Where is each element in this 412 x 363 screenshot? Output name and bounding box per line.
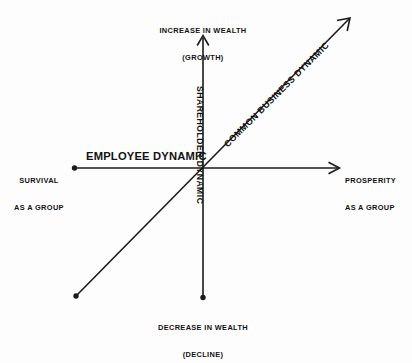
axis-label-decline-line1: DECREASE IN WEALTH — [133, 323, 273, 332]
horizontal-axis-end-dot-icon — [72, 165, 77, 170]
axis-label-growth-line2: (GROWTH) — [133, 53, 273, 62]
axis-label-prosperity-line2: AS A GROUP — [345, 203, 409, 212]
axis-label-survival: SURVIVAL AS A GROUP — [8, 158, 70, 230]
axis-label-decline: DECREASE IN WEALTH (DECLINE) — [133, 305, 273, 363]
vertical-axis-end-dot-icon — [200, 295, 205, 300]
axis-label-decline-line2: (DECLINE) — [133, 350, 273, 359]
axis-label-prosperity-line1: PROSPERITY — [345, 176, 409, 185]
axis-label-prosperity: PROSPERITY AS A GROUP — [345, 158, 409, 230]
axis-label-growth: INCREASE IN WEALTH (GROWTH) — [133, 8, 273, 80]
axis-label-survival-line1: SURVIVAL — [8, 176, 70, 185]
axis-label-growth-line1: INCREASE IN WEALTH — [133, 26, 273, 35]
axis-name-employee-dynamic: EMPLOYEE DYNAMIC — [86, 150, 207, 164]
axis-label-survival-line2: AS A GROUP — [8, 203, 70, 212]
diagonal-axis-end-dot-icon — [73, 293, 78, 298]
axis-name-shareholder-dynamic: SHAREHOLDER DYNAMIC — [195, 86, 205, 204]
